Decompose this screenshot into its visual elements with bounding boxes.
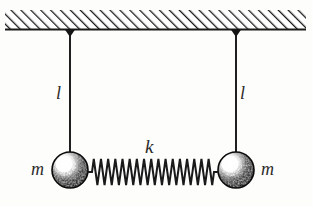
label-length-right: l bbox=[240, 84, 245, 102]
coupled-pendulum-figure: l l k m m bbox=[0, 0, 313, 206]
pendulum-left bbox=[52, 29, 88, 188]
coupling-spring bbox=[88, 159, 218, 185]
pendulum-right bbox=[218, 29, 254, 188]
pendulum-left-pivot-icon bbox=[65, 29, 76, 37]
coupling-spring-coil bbox=[88, 159, 218, 185]
ceiling-support bbox=[5, 10, 306, 30]
ceiling-hatch-band bbox=[5, 10, 306, 29]
label-mass-left: m bbox=[31, 160, 44, 178]
pendulum-right-pivot-icon bbox=[231, 29, 242, 37]
label-spring-constant: k bbox=[145, 137, 153, 156]
label-length-left: l bbox=[56, 84, 61, 102]
label-mass-right: m bbox=[261, 160, 274, 178]
